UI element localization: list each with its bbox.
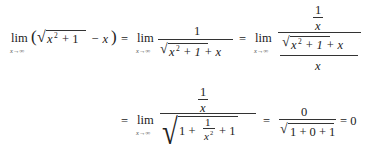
inner-numerator: 1	[200, 86, 206, 99]
radical-sign: √	[37, 28, 46, 46]
var-x: x	[47, 33, 53, 46]
equals: =	[121, 33, 128, 46]
result-denominator: 1 + 0 + 1	[290, 126, 335, 139]
lim-label-4: lim	[137, 114, 154, 127]
radical-bar	[288, 123, 334, 124]
radical-sign: √	[280, 121, 288, 137]
lim-label-3: lim	[255, 32, 272, 45]
inner-denominator: x	[315, 20, 321, 33]
equals-2: =	[263, 115, 270, 128]
lim-label-2: lim	[137, 32, 154, 45]
equals: =	[239, 33, 246, 46]
den-frac-num: 1	[205, 117, 211, 128]
result-fraction-bar	[279, 119, 336, 120]
radical-bar	[168, 43, 208, 44]
fraction-bar-upper	[278, 32, 361, 33]
var-x: x	[291, 39, 297, 52]
fraction-bar	[158, 39, 233, 40]
exponent: 2	[210, 129, 213, 136]
fraction-numerator: 1	[194, 25, 200, 38]
lim-subscript: x→∞	[10, 47, 24, 54]
lim-subscript-3: x→∞	[254, 47, 268, 54]
radical-bar	[290, 36, 330, 37]
inner-fraction-bar	[198, 99, 208, 100]
exponent: 2	[298, 37, 302, 46]
den-rest: + 1	[219, 125, 235, 138]
radical-sign-large: √	[162, 111, 178, 153]
denominator-rest: + 1 + x	[183, 46, 221, 59]
radical-bar	[46, 30, 86, 31]
outer-denominator: x	[315, 60, 321, 73]
radical-sign: √	[160, 41, 168, 57]
exponent: 2	[176, 44, 180, 53]
final-result: = 0	[340, 115, 356, 128]
equals: =	[121, 115, 128, 128]
right-paren: )	[111, 27, 117, 47]
left-paren: (	[31, 27, 37, 47]
inner-numerator: 1	[315, 4, 321, 17]
inner-fraction-bar	[313, 17, 323, 18]
lim-subscript-4: x→∞	[136, 129, 150, 136]
denominator-rest: + 1 + x	[305, 39, 343, 52]
lim-subscript-2: x→∞	[136, 47, 150, 54]
lim-label: lim	[11, 32, 28, 45]
plus-one: + 1	[62, 33, 78, 46]
var-x: x	[169, 46, 175, 59]
result-numerator: 0	[301, 106, 307, 119]
den-one-plus: 1 +	[179, 125, 195, 138]
exponent: 2	[54, 31, 58, 40]
den-frac-den: x	[204, 131, 209, 142]
radical-sign: √	[282, 34, 290, 50]
minus-x: − x	[91, 33, 108, 46]
fraction-bar-main	[280, 55, 358, 56]
